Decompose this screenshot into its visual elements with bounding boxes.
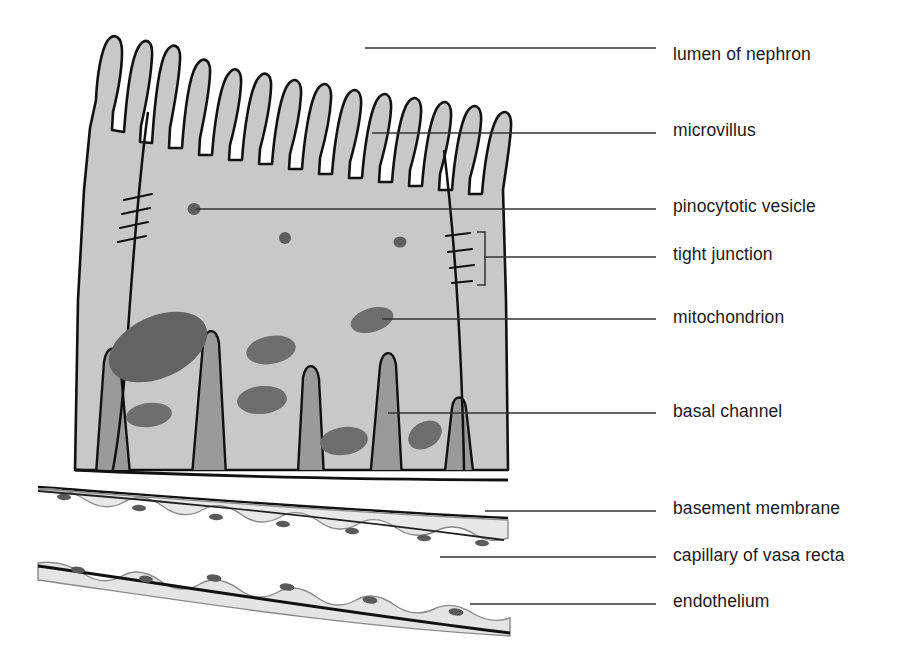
label-capillary-of-vasa-recta: capillary of vasa recta xyxy=(673,547,845,565)
label-list: lumen of nephron microvillus pinocytotic… xyxy=(0,0,923,661)
label-endothelium: endothelium xyxy=(673,593,769,611)
label-tight-junction: tight junction xyxy=(673,246,773,264)
label-pinocytotic-vesicle: pinocytotic vesicle xyxy=(673,198,816,216)
figure-canvas: lumen of nephron microvillus pinocytotic… xyxy=(0,0,923,661)
label-mitochondrion: mitochondrion xyxy=(673,309,784,327)
label-lumen-of-nephron: lumen of nephron xyxy=(673,46,811,64)
label-microvillus: microvillus xyxy=(673,122,756,140)
label-basement-membrane: basement membrane xyxy=(673,500,840,518)
label-basal-channel: basal channel xyxy=(673,403,782,421)
